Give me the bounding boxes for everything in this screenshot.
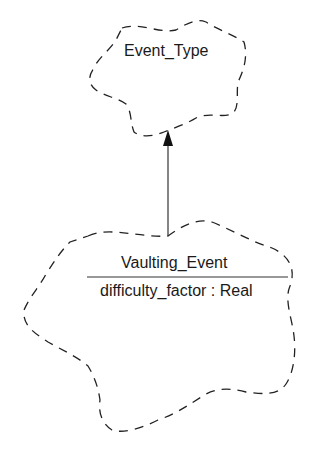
event-type-class-cloud (90, 21, 246, 136)
vaulting-event-class-name: Vaulting_Event (121, 254, 227, 272)
vaulting-event-class-cloud (24, 221, 295, 431)
event-type-class-name: Event_Type (124, 42, 209, 60)
diagram-canvas (0, 0, 330, 459)
vaulting-event-attribute: difficulty_factor : Real (100, 282, 253, 300)
